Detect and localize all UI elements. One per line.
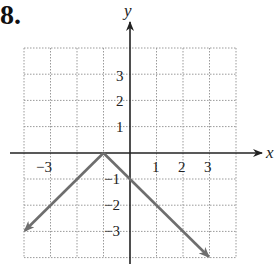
y-tick-label: −1 [104,171,120,187]
y-tick-label: 2 [116,93,124,109]
y-tick-label: −2 [104,197,120,213]
figure: 8. [0,0,277,265]
x-axis-label: x [265,143,274,162]
y-axis-label: y [122,1,132,20]
y-tick-label: −3 [104,223,120,239]
coordinate-plane: x y −3 1 2 3 3 2 1 −1 −2 −3 [0,0,277,265]
y-tick-label: 1 [116,119,124,135]
x-tick-label: 2 [178,159,186,175]
x-tick-label: 1 [152,159,160,175]
x-tick-label: −3 [36,159,52,175]
x-tick-label: 3 [204,159,212,175]
y-tick-label: 3 [116,68,124,84]
